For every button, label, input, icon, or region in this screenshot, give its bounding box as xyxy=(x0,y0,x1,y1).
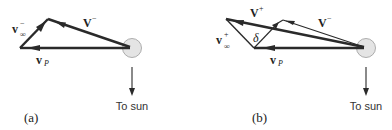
svg-text:v: v xyxy=(270,53,276,67)
svg-text:v: v xyxy=(216,33,222,47)
svg-text:∞: ∞ xyxy=(20,30,26,39)
vector-v-plus-b xyxy=(226,19,364,47)
vector-vp-a-arrowhead xyxy=(27,45,40,51)
panel-label-b: (b) xyxy=(252,110,267,125)
svg-text:V: V xyxy=(318,16,327,30)
svg-text:+: + xyxy=(224,30,229,39)
svg-text:P: P xyxy=(43,59,49,68)
svg-text:v: v xyxy=(36,53,42,67)
label-v-minus-b: V − xyxy=(318,14,332,30)
label-v-inf-a: v − ∞ xyxy=(12,19,26,39)
vector-v-minus-a-arrowhead xyxy=(55,22,66,29)
vector-v-minus-b-arrowhead xyxy=(285,21,295,26)
svg-text:v: v xyxy=(12,22,18,36)
svg-text:−: − xyxy=(327,14,332,23)
panel-b: V + V − v + ∞ δ v P To sun (b) xyxy=(216,4,382,125)
to-sun-arrowhead-b xyxy=(363,88,369,96)
svg-text:−: − xyxy=(20,19,25,28)
to-sun-label-b: To sun xyxy=(350,100,382,112)
svg-text:−: − xyxy=(92,14,97,23)
label-delta-b: δ xyxy=(253,31,259,45)
label-vp-b: v P xyxy=(270,53,283,68)
panel-a: v − ∞ V − v P To sun (a) xyxy=(12,14,148,125)
svg-text:V: V xyxy=(83,16,92,30)
flyby-diagram: v − ∞ V − v P To sun (a) xyxy=(0,0,392,130)
label-v-minus-a: V − xyxy=(83,14,97,30)
svg-text:V: V xyxy=(250,6,259,20)
svg-text:+: + xyxy=(259,4,264,13)
to-sun-arrowhead-a xyxy=(129,88,135,96)
vector-v-inf-minus-b-ext xyxy=(278,20,283,23)
vector-vp-b-arrowhead xyxy=(262,45,275,51)
svg-text:P: P xyxy=(277,59,283,68)
vector-v-plus-b-arrowhead xyxy=(232,20,244,26)
to-sun-label-a: To sun xyxy=(116,100,148,112)
panel-label-a: (a) xyxy=(24,110,38,125)
label-vp-a: v P xyxy=(36,53,49,68)
label-v-inf-plus-b: v + ∞ xyxy=(216,30,230,51)
label-v-plus-b: V + xyxy=(250,4,264,20)
svg-text:∞: ∞ xyxy=(224,42,230,51)
